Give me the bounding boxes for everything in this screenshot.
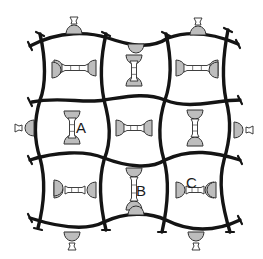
vertical-wall-4 [221,30,230,232]
horizontal-wall-4 [30,214,240,229]
striped-dome-5 [128,44,144,53]
outer-cap-5 [68,243,76,250]
connector-1 [62,64,88,72]
vertical-wall-2 [100,34,109,230]
connector-2 [184,64,210,72]
striped-dome-25 [64,232,80,241]
grid-diagram: A B C [0,0,263,259]
striped-dome-19 [87,182,96,198]
striped-dome-22 [176,182,185,198]
outer-cap-6 [192,243,200,250]
connector-7 [65,186,85,194]
outer-cap-3 [15,124,22,132]
label-b: B [136,182,146,199]
outer-cap-4 [246,126,253,134]
label-a: A [76,119,86,136]
striped-dome-4 [190,26,206,35]
vertical-wall-3 [160,34,171,232]
striped-dome-16 [187,137,203,146]
striped-dome-3 [66,25,82,34]
connector-5 [124,124,144,132]
outer-cap-1 [70,17,78,24]
end-tick-13 [34,228,42,230]
striped-dome-15 [187,110,203,119]
striped-dome-20 [126,168,142,177]
vertical-wall-1 [36,34,45,228]
outer-cap-2 [194,18,202,25]
diagram-stage: A B C [0,0,263,259]
connector-6 [191,119,199,137]
junction-structures [15,17,253,250]
connector-3 [130,61,138,81]
horizontal-wall-3 [30,152,240,166]
striped-dome-12 [25,120,34,136]
connector-4 [68,118,76,138]
striped-dome-26 [188,232,204,241]
label-c: C [186,174,197,191]
striped-dome-17 [234,122,243,138]
horizontal-wall-2 [32,96,240,105]
